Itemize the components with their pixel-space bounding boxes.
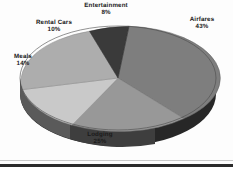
slice-label-entertainment-name: Entertainment [66,2,146,9]
slice-label-entertainment-percent: 8% [66,9,146,16]
slice-label-rental-cars: Rental Cars 10% [23,19,85,33]
slice-label-lodging: Lodging 25% [66,131,134,145]
slice-label-meals-percent: 14% [1,60,45,67]
slice-label-airfares-percent: 43% [176,23,228,30]
slice-label-lodging-name: Lodging [66,131,134,138]
slice-label-airfares-name: Airfares [176,16,228,23]
slice-label-entertainment: Entertainment 8% [66,2,146,16]
slice-label-lodging-percent: 25% [66,138,134,145]
footer-rule-light [0,160,233,161]
slice-label-meals: Meals 14% [1,53,45,67]
slice-label-rental-cars-percent: 10% [23,26,85,33]
slice-label-meals-name: Meals [1,53,45,60]
slice-label-airfares: Airfares 43% [176,16,228,30]
pie-chart-screenshot: Entertainment 8% Airfares 43% Rental Car… [0,0,233,176]
chart-plot-area: Entertainment 8% Airfares 43% Rental Car… [0,0,233,163]
footer-whitespace [0,167,233,176]
slice-label-rental-cars-name: Rental Cars [23,19,85,26]
pie-top-face [20,26,220,132]
